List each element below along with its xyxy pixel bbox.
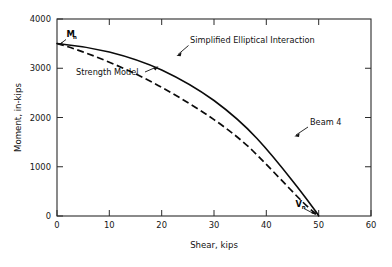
y-axis-title: Moment, in-kips (13, 83, 23, 152)
xtick-label-10: 10 (104, 220, 115, 230)
ytick-label-2000: 2000 (30, 113, 51, 123)
ytick-label-1000: 1000 (30, 162, 51, 172)
simplified-elliptical-label: Simplified Elliptical Interaction (190, 35, 315, 45)
chart-svg: 0 10 20 30 40 50 60 4000 3000 2000 1000 … (0, 0, 392, 267)
x-axis-title: Shear, kips (190, 240, 238, 250)
xtick-label-50: 50 (313, 220, 324, 230)
xtick-label-20: 20 (156, 220, 167, 230)
xtick-label-60: 60 (366, 220, 377, 230)
xtick-label-30: 30 (209, 220, 220, 230)
xtick-label-40: 40 (261, 220, 272, 230)
xtick-label-0: 0 (54, 220, 59, 230)
ytick-label-0: 0 (46, 211, 51, 221)
mn-subscript: n (73, 34, 77, 40)
beam-4-label: Beam 4 (310, 117, 341, 127)
strength-model-label: Strength Model (76, 67, 139, 77)
ytick-label-3000: 3000 (30, 63, 51, 73)
moment-shear-interaction-chart: 0 10 20 30 40 50 60 4000 3000 2000 1000 … (0, 0, 392, 267)
ytick-label-4000: 4000 (30, 14, 51, 24)
